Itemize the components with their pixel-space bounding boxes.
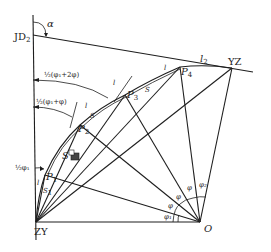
label-phi1: φ₁ [164, 213, 172, 221]
arc-phi1 [178, 215, 179, 222]
marker-square-back [69, 150, 74, 155]
label-phi-c: φ [187, 184, 192, 192]
label-alpha: α [47, 18, 54, 29]
vertical-tangent-line [33, 15, 36, 240]
label-o: O [204, 223, 212, 234]
label-half-phi1-plus-2phi: ½(φ₁+2φ) [44, 71, 79, 79]
label-jd2: JD2 [13, 31, 31, 44]
label-l-d: l [37, 179, 39, 187]
label-l-b: l [113, 79, 115, 87]
chord-zy-p3 [36, 95, 125, 222]
arc-half-phi1-plus-2phi [33, 80, 108, 98]
label-s-a: S [145, 86, 150, 94]
label-phi2: φ₂ [199, 181, 207, 189]
chord-zy-p4 [36, 67, 180, 222]
label-p4: P4 [180, 66, 193, 79]
chord-zy-p2 [36, 125, 80, 222]
label-yz: YZ [227, 56, 242, 67]
label-p1: P1 [45, 171, 57, 184]
label-s-b: S [90, 112, 95, 120]
chord-zy-yz [36, 68, 232, 222]
label-half-phi1-plus-phi: ½(φ₁+φ) [36, 98, 67, 106]
arc-phi-a [173, 204, 180, 222]
label-zy: ZY [34, 226, 48, 237]
label-p2: P2 [77, 123, 89, 136]
curve-setting-diagram: JD2 α ½(φ₁+2φ) ½(φ₁+φ) ½φ₁ P1 P2 P3 P4 Y… [0, 0, 271, 252]
label-phi-a: φ [168, 202, 173, 210]
label-phi-b: φ [176, 193, 181, 201]
tangent-tick-p2 [70, 102, 77, 128]
alpha-arc [33, 22, 46, 36]
label-s1: S1 [43, 187, 52, 197]
label-s-c: S [62, 150, 69, 161]
label-l-c: l [85, 102, 87, 110]
label-half-phi1: ½φ₁ [15, 164, 30, 172]
label-l2: l2 [200, 53, 208, 66]
arc-phi2 [193, 197, 206, 198]
label-l-a: l [164, 64, 166, 72]
radius-o-yz [200, 68, 232, 222]
